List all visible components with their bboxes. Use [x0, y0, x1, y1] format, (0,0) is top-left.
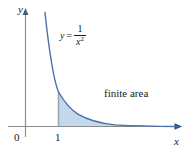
equation-fraction: 1 x2 — [74, 24, 86, 47]
x-axis-label: x — [174, 136, 179, 147]
finite-area-annotation: finite area — [104, 88, 148, 99]
plot-canvas — [0, 0, 189, 157]
equation-operator: = — [66, 31, 72, 41]
equation-numerator: 1 — [76, 24, 85, 35]
equation-denominator: x2 — [74, 36, 86, 47]
equation-exponent: 2 — [81, 35, 85, 43]
equation-lhs: y — [60, 31, 64, 41]
integral-area-figure: y x 0 1 y = 1 x2 finite area — [0, 0, 189, 157]
y-axis-arrowhead — [23, 8, 29, 15]
x-tick-label-1: 1 — [55, 132, 61, 143]
curve-equation-label: y = 1 x2 — [60, 24, 86, 47]
origin-label: 0 — [14, 132, 20, 143]
y-axis-label: y — [18, 4, 23, 15]
